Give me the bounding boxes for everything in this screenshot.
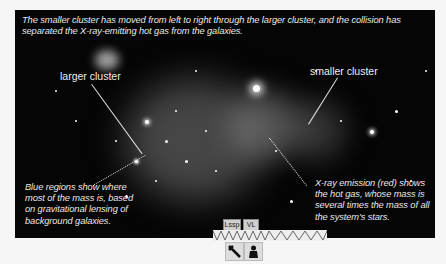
star — [145, 120, 149, 124]
bullet-cluster-image: The smaller cluster has moved from left … — [15, 10, 435, 238]
star — [395, 110, 398, 113]
star — [275, 150, 277, 152]
star — [205, 130, 207, 132]
star — [215, 170, 217, 172]
star — [175, 110, 177, 112]
caption-xray: X-ray emission (red) shows the hot gas, … — [315, 178, 430, 223]
star — [290, 200, 293, 203]
bright-star — [253, 85, 260, 92]
label-larger-cluster: larger cluster — [60, 70, 121, 82]
star — [165, 140, 168, 143]
telescope-icon[interactable] — [225, 242, 244, 261]
caption-blue: Blue regions show where most of the mass… — [25, 182, 145, 227]
star — [370, 130, 374, 134]
caption-top: The smaller cluster has moved from left … — [22, 15, 422, 37]
star — [115, 140, 117, 142]
star — [195, 70, 197, 72]
smaller-cluster-glow — [285, 100, 345, 160]
star — [425, 70, 427, 72]
star — [340, 120, 342, 122]
star — [55, 90, 57, 92]
star — [185, 160, 188, 163]
star — [155, 180, 157, 182]
star — [75, 120, 77, 122]
pawn-icon[interactable] — [244, 242, 263, 261]
label-smaller-cluster: smaller cluster — [310, 65, 378, 77]
bright-galaxy — [95, 50, 119, 70]
zigzag-strip — [213, 230, 327, 241]
